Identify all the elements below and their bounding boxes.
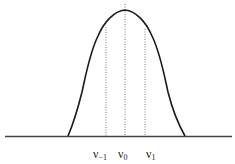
label-nu-minus-1: ν−1 — [93, 147, 107, 162]
bell-curve — [68, 10, 185, 136]
bell-curve-diagram: ν−1 ν0 ν1 — [0, 0, 235, 164]
label-nu-1: ν1 — [146, 147, 155, 162]
label-nu-0: ν0 — [118, 147, 127, 162]
